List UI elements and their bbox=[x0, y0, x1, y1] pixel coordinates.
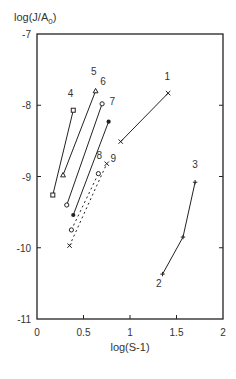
y-tick-label: -8 bbox=[22, 100, 31, 111]
series-1 bbox=[119, 91, 171, 144]
data-series bbox=[51, 88, 197, 276]
series-line bbox=[163, 182, 196, 274]
x-marker-icon bbox=[67, 243, 71, 247]
series-8 bbox=[69, 172, 100, 232]
series-label-3: 3 bbox=[192, 159, 198, 170]
series-label-6: 6 bbox=[100, 76, 106, 87]
chart: 00.511.52-7-8-9-10-11 123456789 log(J/A0… bbox=[0, 0, 236, 379]
triangle-marker-icon bbox=[93, 88, 98, 92]
triangle-marker-icon bbox=[61, 172, 66, 176]
square-marker-icon bbox=[71, 108, 75, 112]
series-7 bbox=[71, 120, 111, 218]
plus-marker-icon bbox=[193, 180, 197, 184]
series-label-9: 9 bbox=[110, 153, 116, 164]
x-tick-label: 0.5 bbox=[77, 327, 91, 338]
x-tick-label: 1.5 bbox=[170, 327, 184, 338]
plus-marker-icon bbox=[181, 235, 185, 239]
series-label-8: 8 bbox=[97, 150, 103, 161]
series-line bbox=[121, 93, 168, 141]
y-tick-label: -7 bbox=[22, 29, 31, 40]
x-marker-icon bbox=[105, 161, 109, 165]
x-marker-icon bbox=[166, 91, 170, 95]
plus-marker-icon bbox=[160, 272, 164, 276]
x-tick-label: 1 bbox=[127, 327, 133, 338]
y-tick-label: -11 bbox=[17, 314, 31, 325]
filled-circle-marker-icon bbox=[71, 213, 75, 217]
x-tick-label: 0 bbox=[34, 327, 40, 338]
x-axis-label: log(S-1) bbox=[110, 341, 149, 353]
series-line bbox=[53, 110, 73, 195]
y-tick-label: -9 bbox=[22, 172, 31, 183]
series-2-3 bbox=[160, 180, 197, 276]
series-label-2: 2 bbox=[156, 278, 162, 289]
y-axis-label: log(J/A0) bbox=[14, 11, 56, 26]
x-marker-icon bbox=[119, 139, 123, 143]
x-tick-label: 2 bbox=[220, 327, 226, 338]
circle-marker-icon bbox=[96, 172, 100, 176]
series-label-7: 7 bbox=[110, 96, 116, 107]
series-label-5: 5 bbox=[91, 66, 97, 77]
series-line bbox=[71, 174, 98, 230]
filled-circle-marker-icon bbox=[107, 120, 111, 124]
circle-marker-icon bbox=[65, 203, 69, 207]
series-label-1: 1 bbox=[164, 71, 170, 82]
y-tick-label: -10 bbox=[17, 243, 32, 254]
circle-marker-icon bbox=[69, 228, 73, 232]
series-label-4: 4 bbox=[68, 88, 74, 99]
square-marker-icon bbox=[51, 193, 55, 197]
circle-marker-icon bbox=[100, 102, 104, 106]
